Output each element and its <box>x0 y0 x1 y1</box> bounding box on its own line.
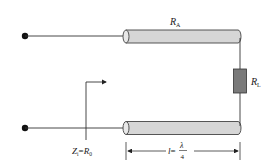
input-impedance-label: Zi=R0 <box>72 146 92 157</box>
svg-text:l=: l= <box>168 146 176 156</box>
svg-text:λ: λ <box>179 141 184 150</box>
load-resistor <box>234 69 247 93</box>
svg-text:4: 4 <box>181 153 185 161</box>
input-impedance-arrow <box>86 82 106 140</box>
top-line-resistance-label: RA <box>169 16 181 28</box>
line-length-label: l= λ 4 <box>168 141 187 161</box>
bottom-cable <box>123 122 241 135</box>
top-cable <box>123 30 241 43</box>
transmission-line-diagram: RA RL Zi=R0 l= λ 4 <box>0 0 278 166</box>
load-resistor-label: RL <box>250 76 261 88</box>
